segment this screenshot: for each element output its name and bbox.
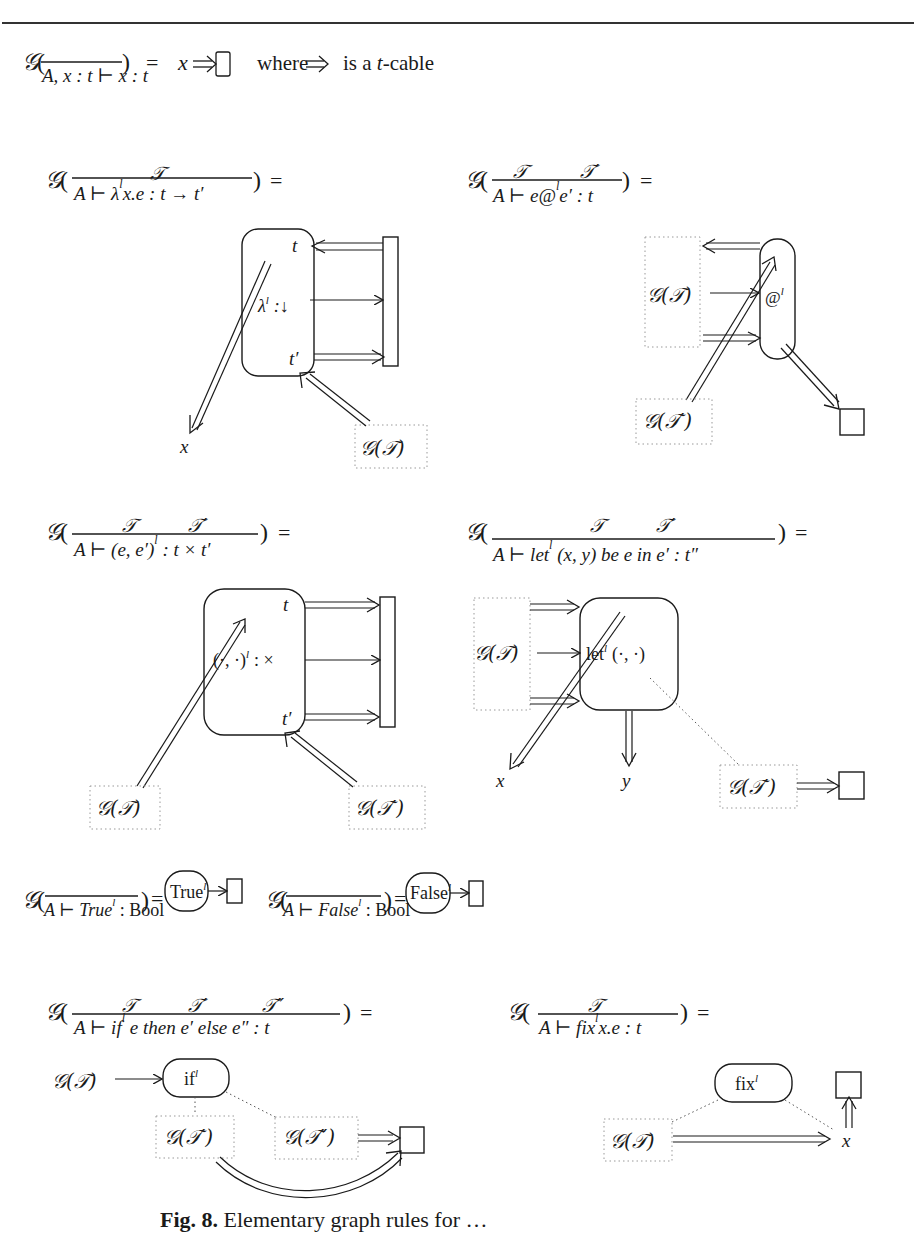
svg-text:t′: t′ xyxy=(289,348,299,369)
svg-text:=: = xyxy=(795,520,807,545)
svg-text:t: t xyxy=(283,594,289,615)
svg-text:(: ( xyxy=(60,519,68,545)
svg-text:ifl: ifl xyxy=(184,1067,198,1089)
svg-text:=: = xyxy=(640,168,652,193)
var-x: x xyxy=(177,50,188,75)
svg-text:): ) xyxy=(778,519,786,545)
svg-text:(: ( xyxy=(480,167,488,193)
svg-text:𝒢(𝒯′): 𝒢(𝒯′) xyxy=(727,775,776,799)
svg-text:𝒢(𝒯′): 𝒢(𝒯′) xyxy=(643,409,692,433)
svg-text:t′: t′ xyxy=(282,708,292,729)
svg-text:): ) xyxy=(680,999,688,1025)
svg-text:𝒢(𝒯): 𝒢(𝒯) xyxy=(647,283,692,307)
svg-text:): ) xyxy=(622,167,630,193)
svg-text:𝒯′: 𝒯′ xyxy=(656,514,676,536)
svg-text:A ⊢ (e, e′)l : t × t′: A ⊢ (e, e′)l : t × t′ xyxy=(72,533,211,561)
svg-text:(: ( xyxy=(480,519,488,545)
sink-box xyxy=(469,881,483,906)
svg-text:𝒢(𝒯′): 𝒢(𝒯′) xyxy=(164,1125,213,1149)
svg-text:A ⊢ letl (x, y) be e in e′ : t: A ⊢ letl (x, y) be e in e′ : t″ xyxy=(491,538,699,566)
cable-bar xyxy=(383,237,398,366)
svg-text:𝒢(𝒯″): 𝒢(𝒯″) xyxy=(283,1125,335,1149)
svg-text:𝒢(𝒯): 𝒢(𝒯) xyxy=(360,436,405,460)
svg-text:Falsel: Falsel xyxy=(410,881,451,903)
svg-text:): ) xyxy=(260,519,268,545)
rule-fix: 𝒢 ( 𝒯 A ⊢ fixlx.e : t ) = fixl 𝒢(𝒯) x xyxy=(507,994,861,1161)
svg-text:@l: @l xyxy=(765,285,784,307)
svg-text:Truel: Truel xyxy=(170,880,206,902)
svg-text:𝒯: 𝒯 xyxy=(150,162,170,184)
svg-text:): ) xyxy=(253,167,261,193)
svg-text:=: = xyxy=(278,520,290,545)
svg-text:𝒢(𝒯): 𝒢(𝒯) xyxy=(474,641,519,665)
sink-box xyxy=(216,52,230,76)
sink-box xyxy=(227,879,242,903)
svg-text:𝒯: 𝒯 xyxy=(590,514,610,536)
svg-text:): ) xyxy=(384,887,392,913)
cable-arrow-icon xyxy=(319,56,328,72)
svg-text:𝒢(𝒯): 𝒢(𝒯) xyxy=(610,1129,655,1153)
svg-text:where: where xyxy=(257,51,308,75)
svg-text:x: x xyxy=(841,1130,851,1151)
caption-text: Elementary graph rules for … xyxy=(224,1207,488,1232)
svg-text:(: ( xyxy=(60,999,68,1025)
cable-arrow-icon xyxy=(207,56,216,72)
svg-text:(: ( xyxy=(60,167,68,193)
caption-label: Fig. 8. xyxy=(160,1207,218,1232)
svg-text:is a t-cable: is a t-cable xyxy=(343,51,434,75)
svg-text:A ⊢ e@le′ : t: A ⊢ e@le′ : t xyxy=(491,179,594,206)
rule-pair: 𝒢 ( 𝒯 𝒯′ A ⊢ (e, e′)l : t × t′ ) = t (·,… xyxy=(45,514,425,829)
svg-text:𝒢(𝒯): 𝒢(𝒯) xyxy=(52,1069,97,1093)
svg-text:t: t xyxy=(292,235,298,256)
svg-text:A ⊢ ifl e then e′ else e″ : t: A ⊢ ifl e then e′ else e″ : t xyxy=(72,1011,270,1038)
svg-text:=: = xyxy=(394,886,406,911)
svg-text:λl:↓: λl:↓ xyxy=(257,294,289,316)
svg-text:𝒯: 𝒯 xyxy=(122,514,142,536)
figure-caption: Fig. 8. Elementary graph rules for … xyxy=(160,1207,487,1233)
rule-true: 𝒢 ( A ⊢ Truel : Bool ) = Truel xyxy=(22,871,242,920)
sink-box xyxy=(836,1072,861,1098)
sink-box xyxy=(839,772,864,799)
sink-box xyxy=(840,409,864,435)
rule-false: 𝒢 ( A ⊢ Falsel : Bool ) = Falsel xyxy=(265,873,483,920)
svg-text:=: = xyxy=(151,886,163,911)
svg-text:𝒯′: 𝒯′ xyxy=(188,514,208,536)
svg-text:letl(·, ·): letl(·, ·) xyxy=(586,642,645,665)
svg-text:A ⊢ λlx.e : t → t′: A ⊢ λlx.e : t → t′ xyxy=(72,177,204,204)
rule-application: 𝒢 ( 𝒯 𝒯′ A ⊢ e@le′ : t ) = 𝒢(𝒯) @l xyxy=(465,160,864,444)
svg-text:=: = xyxy=(270,168,282,193)
svg-text:=: = xyxy=(697,1000,709,1025)
svg-text:𝒯′: 𝒯′ xyxy=(188,994,208,1016)
svg-text:): ) xyxy=(122,49,130,75)
conclusion: A, x : t ⊢ x : t xyxy=(40,65,149,86)
svg-text:): ) xyxy=(343,999,351,1025)
rule-if: 𝒢 ( 𝒯 𝒯′ 𝒯″ A ⊢ ifl e then e′ else e″ : … xyxy=(45,994,424,1198)
svg-text:𝒢(𝒯′): 𝒢(𝒯′) xyxy=(355,796,404,820)
cable-bar xyxy=(380,597,395,727)
svg-text:y: y xyxy=(620,770,631,791)
svg-text:=: = xyxy=(146,50,158,75)
svg-text:fixl: fixl xyxy=(735,1072,758,1094)
svg-text:(: ( xyxy=(522,999,530,1025)
svg-text:=: = xyxy=(360,1000,372,1025)
svg-text:x: x xyxy=(179,436,189,457)
svg-text:𝒯″: 𝒯″ xyxy=(262,994,284,1016)
rule-lambda: 𝒢 ( 𝒯 A ⊢ λlx.e : t → t′ ) = t λl:↓ t′ xyxy=(45,162,427,468)
svg-text:x: x xyxy=(495,770,505,791)
svg-text:): ) xyxy=(141,887,149,913)
rule-let: 𝒢 ( 𝒯 𝒯′ A ⊢ letl (x, y) be e in e′ : t″… xyxy=(465,514,864,808)
svg-text:𝒢(𝒯): 𝒢(𝒯) xyxy=(96,796,141,820)
rule-variable: 𝒢 ( A, x : t ⊢ x : t ) = x where is a t-… xyxy=(22,48,434,86)
svg-text:𝒯: 𝒯 xyxy=(513,160,533,182)
svg-text:𝒯′: 𝒯′ xyxy=(580,160,600,182)
sink-box xyxy=(400,1127,424,1153)
